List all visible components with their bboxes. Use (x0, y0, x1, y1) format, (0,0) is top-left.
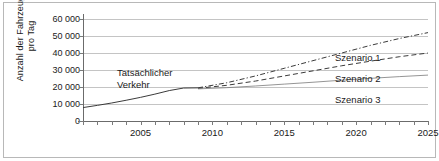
x-tick-2011 (227, 121, 228, 125)
x-tick-2022 (385, 121, 386, 125)
x-tick-2009 (198, 121, 199, 125)
y-tick-50000 (79, 36, 83, 37)
x-tick-2013 (256, 121, 257, 125)
series-label-szenario-3: Szenario 3 (335, 94, 380, 106)
y-tick-20000 (79, 87, 83, 88)
y-tick-label-40000: 40 000 (32, 48, 80, 58)
figure-frame: Anzahl der Fahrzeuge pro Tag 010 00020 0… (3, 2, 436, 158)
x-tick-2015 (284, 121, 285, 125)
series-line-szenario-2 (198, 53, 428, 88)
x-tick-2012 (241, 121, 242, 125)
x-tick-2006 (155, 121, 156, 125)
series-line-tats-chlicher-verkehr (83, 88, 198, 108)
x-tick-2001 (83, 121, 84, 125)
x-tick-2004 (126, 121, 127, 125)
x-tick-label-2010: 2010 (202, 127, 223, 138)
y-tick-10000 (79, 104, 83, 105)
x-tick-2014 (270, 121, 271, 125)
y-tick-30000 (79, 70, 83, 71)
x-tick-2005 (141, 121, 142, 125)
y-tick-label-10000: 10 000 (32, 99, 80, 109)
series-label-szenario-1: Szenario 1 (335, 52, 380, 64)
x-tick-2020 (356, 121, 357, 125)
x-tick-label-2005: 2005 (130, 127, 151, 138)
x-tick-2010 (212, 121, 213, 125)
y-tick-label-20000: 20 000 (32, 82, 80, 92)
x-tick-2007 (169, 121, 170, 125)
y-tick-label-0: 0 (32, 116, 80, 126)
x-tick-label-2025: 2025 (417, 127, 438, 138)
x-tick-2019 (342, 121, 343, 125)
x-tick-2008 (184, 121, 185, 125)
series-line-szenario-3 (198, 75, 428, 89)
series-line-szenario-1 (198, 33, 428, 88)
x-tick-2021 (371, 121, 372, 125)
x-tick-2018 (327, 121, 328, 125)
y-tick-40000 (79, 53, 83, 54)
x-tick-label-2015: 2015 (274, 127, 295, 138)
x-tick-2016 (299, 121, 300, 125)
x-tick-2023 (399, 121, 400, 125)
y-tick-label-30000: 30 000 (32, 65, 80, 75)
annotation-tatsaechlicher-verkehr: Tatsächlicher Verkehr (117, 67, 172, 90)
y-axis-tick-labels: 010 00020 00030 00040 00050 00060 000 (32, 14, 80, 126)
x-tick-2024 (414, 121, 415, 125)
x-tick-label-2020: 2020 (346, 127, 367, 138)
y-tick-label-50000: 50 000 (32, 31, 80, 41)
x-tick-2017 (313, 121, 314, 125)
x-tick-2003 (112, 121, 113, 125)
y-tick-60000 (79, 19, 83, 20)
plot-area: Tatsächlicher Verkehr Szenario 1 Szenari… (83, 19, 428, 121)
y-tick-label-60000: 60 000 (32, 14, 80, 24)
series-label-szenario-2: Szenario 2 (335, 73, 380, 85)
x-tick-2025 (428, 121, 429, 125)
x-axis-line (78, 121, 428, 122)
x-tick-2002 (97, 121, 98, 125)
chart-screenshot: Anzahl der Fahrzeuge pro Tag 010 00020 0… (0, 0, 439, 161)
